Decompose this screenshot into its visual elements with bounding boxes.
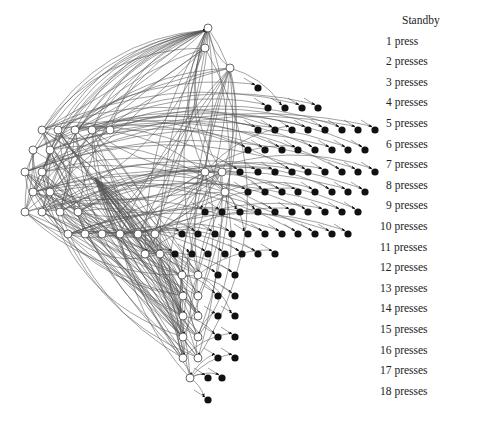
state-node-terminal	[354, 208, 361, 215]
transition-edge	[284, 224, 295, 231]
state-node-terminal	[178, 230, 185, 237]
transition-edge	[58, 30, 206, 130]
state-node-terminal	[371, 168, 378, 175]
state-node-terminal	[271, 168, 278, 175]
transition-edge	[183, 333, 231, 358]
transition-edge	[204, 348, 215, 355]
state-node-terminal	[218, 374, 225, 381]
state-node-open	[178, 271, 186, 279]
transition-edge	[334, 140, 345, 147]
legend-item: 5 presses	[386, 117, 428, 129]
state-node-terminal	[328, 230, 335, 237]
legend-item: 18 presses	[380, 385, 428, 397]
transition-edge	[251, 224, 262, 231]
state-node-open	[194, 271, 202, 279]
state-node-terminal	[288, 168, 295, 175]
legend-item: 3 presses	[386, 76, 428, 88]
state-node-open	[194, 312, 202, 320]
state-node-terminal	[204, 396, 211, 403]
transition-edge	[351, 140, 362, 147]
transition-edge	[228, 244, 239, 251]
state-node-terminal	[271, 126, 278, 133]
legend-item: 6 presses	[386, 138, 428, 150]
state-node-terminal	[271, 208, 278, 215]
state-node-open	[46, 188, 54, 196]
transition-edge	[25, 48, 205, 212]
transition-edge	[25, 48, 205, 212]
state-node-open	[218, 168, 226, 176]
legend-item: 2 presses	[386, 55, 428, 67]
state-node-terminal	[338, 168, 345, 175]
state-node-terminal	[338, 126, 345, 133]
transition-edge	[328, 162, 339, 169]
state-node-terminal	[361, 146, 368, 153]
state-node-terminal	[311, 188, 318, 195]
state-node-terminal	[214, 312, 221, 319]
state-node-open	[29, 146, 37, 154]
state-node-terminal	[261, 230, 268, 237]
state-node-terminal	[218, 208, 225, 215]
state-node-terminal	[321, 208, 328, 215]
transition-edge	[208, 28, 230, 68]
state-node-terminal	[221, 250, 228, 257]
state-node-terminal	[231, 354, 238, 361]
transition-edge	[254, 98, 265, 105]
state-node-terminal	[314, 104, 321, 111]
state-node-terminal	[254, 126, 261, 133]
state-node-open	[179, 312, 187, 320]
state-node-terminal	[214, 354, 221, 361]
legend-item: 10 presses	[380, 220, 428, 232]
state-node-terminal	[254, 168, 261, 175]
legend-item: 12 presses	[380, 261, 428, 273]
state-node-terminal	[211, 230, 218, 237]
legend-item: 7 presses	[386, 158, 428, 170]
state-node-open	[71, 126, 79, 134]
transition-edge	[311, 162, 322, 169]
state-node-open	[106, 126, 114, 134]
state-node-terminal	[278, 146, 285, 153]
state-node-open	[64, 230, 72, 238]
state-node-open	[186, 374, 194, 382]
state-node-terminal	[288, 126, 295, 133]
legend-item: 8 presses	[386, 179, 428, 191]
legend-item: 14 presses	[380, 302, 428, 314]
state-node-terminal	[328, 146, 335, 153]
state-node-terminal	[271, 250, 278, 257]
legend-item: 15 presses	[380, 323, 428, 335]
state-node-terminal	[264, 104, 271, 111]
transition-edge	[198, 275, 231, 312]
transition-edge	[221, 327, 232, 334]
state-node-terminal	[304, 126, 311, 133]
state-node-open	[204, 24, 212, 32]
state-node-terminal	[194, 230, 201, 237]
transition-edge	[221, 265, 232, 272]
state-node-open	[81, 230, 89, 238]
state-node-terminal	[354, 126, 361, 133]
transition-edge	[301, 224, 312, 231]
state-node-open	[194, 292, 202, 300]
transition-edge	[334, 182, 345, 189]
state-node-open	[21, 168, 29, 176]
transition-edge	[42, 48, 205, 130]
state-node-terminal	[278, 230, 285, 237]
state-node-terminal	[228, 230, 235, 237]
state-node-open	[201, 44, 209, 52]
transition-edge	[25, 48, 205, 212]
state-node-open	[179, 333, 187, 341]
transition-edge	[42, 92, 298, 130]
transition-edge	[311, 202, 322, 209]
state-node-open	[38, 168, 46, 176]
state-node-terminal	[254, 84, 261, 91]
state-node-open	[151, 230, 159, 238]
state-node-terminal	[328, 188, 335, 195]
transition-edge	[92, 123, 338, 168]
state-node-terminal	[294, 188, 301, 195]
transition-edge	[318, 140, 329, 147]
state-node-terminal	[244, 188, 251, 195]
transition-edge	[344, 202, 355, 209]
state-node-terminal	[236, 168, 243, 175]
state-node-terminal	[278, 188, 285, 195]
transition-edge	[304, 98, 315, 105]
state-node-terminal	[214, 271, 221, 278]
state-node-terminal	[344, 188, 351, 195]
